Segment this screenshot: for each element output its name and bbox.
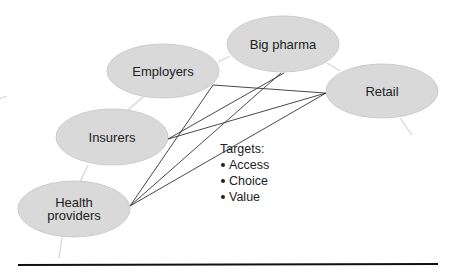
label-employers: Employers [132,64,194,79]
stakeholder-diagram: Employers Big pharma Retail Insurers Hea… [0,0,453,272]
target-item: Access [220,157,269,173]
label-big-pharma: Big pharma [250,37,317,52]
connector-insurers-health [80,165,88,182]
label-providers: providers [47,208,101,223]
connector-employers-insurers [128,97,143,110]
target-item: Choice [220,173,269,189]
targets-title: Targets: [220,141,269,157]
link-employers-retail [213,85,325,93]
label-insurers: Insurers [89,130,136,145]
targets-box: Targets: Access Choice Value [220,141,269,205]
connector-health-tail [59,237,62,258]
targets-list: Access Choice Value [220,157,269,205]
label-retail: Retail [365,84,398,99]
target-item: Value [220,189,269,205]
connector-left-edge [0,96,7,100]
bottom-rule [18,264,438,265]
connector-bigpharma-retail [327,63,340,71]
connector-retail-tail [400,118,412,135]
connector-employers-bigpharma [218,56,230,62]
